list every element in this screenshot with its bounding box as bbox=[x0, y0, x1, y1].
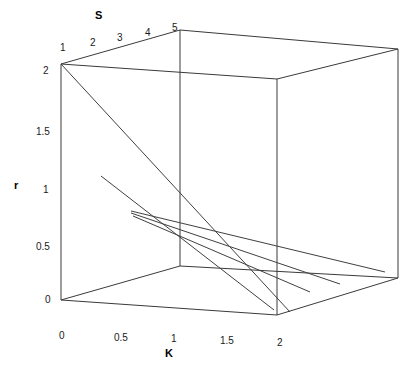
cube-edge-front-face bbox=[61, 64, 277, 315]
axis-title-r: r bbox=[14, 180, 18, 191]
cube-wireframe bbox=[61, 30, 398, 315]
data-line bbox=[131, 211, 385, 272]
x-axis-tick-label: 0.5 bbox=[114, 333, 128, 343]
data-line bbox=[131, 213, 340, 284]
data-line bbox=[133, 216, 310, 292]
cube-edge-top-right bbox=[277, 49, 398, 79]
x-axis-tick-label: 2 bbox=[277, 338, 283, 348]
y-axis-tick-label: 1 bbox=[60, 43, 66, 53]
chart-canvas: 00.511.521234521.510.50 S r K bbox=[0, 0, 420, 365]
plot-svg bbox=[0, 0, 420, 365]
data-line bbox=[61, 64, 290, 312]
z-axis-tick-label: 1.5 bbox=[36, 127, 50, 137]
axis-title-k: K bbox=[165, 348, 173, 359]
cube-edge-bottom-left bbox=[61, 266, 180, 300]
z-axis-tick-label: 0.5 bbox=[36, 242, 50, 252]
y-axis-tick-label: 2 bbox=[90, 38, 96, 48]
axis-title-s: S bbox=[95, 10, 102, 21]
y-axis-tick-label: 5 bbox=[172, 23, 178, 33]
y-axis-tick-label: 4 bbox=[145, 28, 151, 38]
z-axis-tick-label: 2 bbox=[43, 66, 49, 76]
z-axis-tick-label: 0 bbox=[45, 295, 51, 305]
z-axis-tick-label: 1 bbox=[43, 185, 49, 195]
x-axis-tick-label: 0 bbox=[59, 331, 65, 341]
data-line bbox=[101, 176, 274, 310]
y-axis-tick-label: 3 bbox=[117, 33, 123, 43]
x-axis-tick-label: 1.5 bbox=[220, 336, 234, 346]
x-axis-tick-label: 1 bbox=[171, 334, 177, 344]
